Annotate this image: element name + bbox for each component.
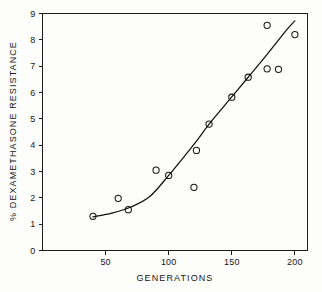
y-tick-label: 6 (30, 88, 35, 98)
x-tick-label: 200 (287, 257, 303, 267)
y-tick-label: 9 (30, 9, 35, 19)
resistance-scatter-plot: 0123456789 50100150200 GENERATIONS % DEX… (0, 0, 322, 292)
x-tick-label: 50 (100, 257, 110, 267)
data-point (264, 66, 270, 72)
data-point (153, 167, 159, 173)
y-tick-label: 7 (30, 61, 35, 71)
y-tick-label: 2 (30, 193, 35, 203)
x-tick-label: 150 (224, 257, 240, 267)
y-tick-label: 0 (30, 246, 35, 256)
chart-figure: 0123456789 50100150200 GENERATIONS % DEX… (0, 0, 322, 292)
y-axis-tick-labels: 0123456789 (30, 9, 35, 256)
y-tick-label: 4 (30, 140, 35, 150)
y-axis-title: % DEXAMETHASONE RESISTANCE (8, 41, 18, 221)
x-axis-ticks (106, 251, 295, 255)
y-tick-label: 8 (30, 35, 35, 45)
y-tick-label: 5 (30, 114, 35, 124)
x-tick-label: 100 (161, 257, 177, 267)
data-point-markers (90, 22, 298, 219)
data-point (191, 184, 197, 190)
plot-frame (43, 13, 309, 251)
data-point (193, 147, 199, 153)
data-point (264, 22, 270, 28)
data-point (275, 66, 281, 72)
y-axis-ticks (39, 14, 43, 251)
fitted-trend-curve (93, 21, 295, 217)
x-axis-tick-labels: 50100150200 (100, 257, 302, 267)
y-tick-label: 3 (30, 167, 35, 177)
data-point (115, 195, 121, 201)
x-axis-title: GENERATIONS (137, 273, 214, 283)
data-point (292, 31, 298, 37)
y-tick-label: 1 (30, 219, 35, 229)
